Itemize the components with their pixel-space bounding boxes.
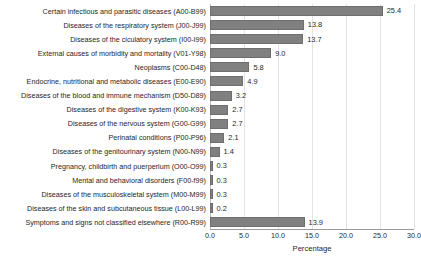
category-label: Diseases of the ciculatory system (I00-I… [0, 35, 206, 44]
bar-track: 0.3 [210, 173, 414, 187]
bar-row: Diseases of the ciculatory system (I00-I… [0, 32, 421, 46]
x-axis-tick-labels: 0.05.010.015.020.025.030.0 [0, 231, 421, 243]
bar-value-label: 13.8 [308, 20, 322, 29]
bar-row: Diseases of the respiratory system (J00-… [0, 18, 421, 32]
bar[interactable] [210, 119, 228, 129]
category-label: Certain infectious and parasitic disease… [0, 7, 206, 16]
bar-row: Diseases of the skin and subcutaneous ti… [0, 201, 421, 215]
bar-value-label: 0.3 [217, 190, 227, 199]
x-tick-label: 0.0 [205, 231, 215, 240]
x-tick-label: 15.0 [305, 231, 319, 240]
bar-track: 3.2 [210, 89, 414, 103]
bar[interactable] [210, 76, 243, 86]
category-label: Pregnancy, childbirth and puerperium (O0… [0, 162, 206, 171]
bar-value-label: 2.7 [232, 105, 242, 114]
category-label: External causes of morbidity and mortali… [0, 49, 206, 58]
bar[interactable] [210, 189, 213, 199]
bar[interactable] [210, 62, 249, 72]
bar-value-label: 5.8 [253, 63, 263, 72]
category-label: Endocrine, nutritional and metabolic dis… [0, 77, 206, 86]
bar-track: 13.8 [210, 18, 414, 32]
x-axis-line [210, 229, 414, 230]
bar-row: Diseases of the blood and immune mechani… [0, 89, 421, 103]
category-label: Mental and behavioral disorders (F00-f99… [0, 176, 206, 185]
category-label: Diseases of the respiratory system (J00-… [0, 21, 206, 30]
bar-row: Diseases of the musculoskeletal system (… [0, 187, 421, 201]
category-label: Diseases of the blood and immune mechani… [0, 91, 206, 100]
bar[interactable] [210, 217, 305, 227]
bar[interactable] [210, 105, 228, 115]
bar[interactable] [210, 203, 213, 213]
bar-value-label: 13.9 [309, 218, 323, 227]
bar-track: 0.3 [210, 159, 414, 173]
category-label: Diseases of the digestive system (K00-K9… [0, 105, 206, 114]
bar[interactable] [210, 161, 213, 171]
bar-row: Certain infectious and parasitic disease… [0, 4, 421, 18]
bar-row: Pregnancy, childbirth and puerperium (O0… [0, 159, 421, 173]
bar-rows: Certain infectious and parasitic disease… [0, 4, 421, 230]
category-label: Perinatal conditions (P00-P96) [0, 133, 206, 142]
bar-track: 25.4 [210, 4, 414, 18]
bar[interactable] [210, 6, 383, 16]
bar-value-label: 9.0 [275, 49, 285, 58]
bar[interactable] [210, 91, 232, 101]
x-axis-title: Percentage [210, 244, 414, 254]
bar-track: 9.0 [210, 46, 414, 60]
bar-track: 2.7 [210, 117, 414, 131]
bar-track: 13.9 [210, 215, 414, 229]
bar-track: 4.9 [210, 74, 414, 88]
bar-track: 5.8 [210, 60, 414, 74]
bar-row: Diseases of the genitourinary system (N0… [0, 145, 421, 159]
bar-row: Perinatal conditions (P00-P96)2.1 [0, 131, 421, 145]
category-label: Diseases of the skin and subcutaneous ti… [0, 204, 206, 213]
bar-row: Symptoms and signs not classified elsewh… [0, 215, 421, 229]
bar-row: External causes of morbidity and mortali… [0, 46, 421, 60]
bar-track: 0.3 [210, 187, 414, 201]
bar-track: 1.4 [210, 145, 414, 159]
bar-row: Mental and behavioral disorders (F00-f99… [0, 173, 421, 187]
x-tick-label: 30.0 [407, 231, 421, 240]
bar[interactable] [210, 133, 224, 143]
bar-row: Endocrine, nutritional and metabolic dis… [0, 74, 421, 88]
bar-chart: Certain infectious and parasitic disease… [0, 0, 421, 261]
category-label: Diseases of the musculoskeletal system (… [0, 190, 206, 199]
bar-track: 2.1 [210, 131, 414, 145]
bar[interactable] [210, 48, 271, 58]
bar-value-label: 0.3 [217, 176, 227, 185]
x-tick-label: 5.0 [239, 231, 249, 240]
bar-row: Diseases of the nervous system (G00-G99)… [0, 117, 421, 131]
bar-value-label: 4.9 [247, 77, 257, 86]
bar-value-label: 3.2 [236, 91, 246, 100]
bar-value-label: 2.7 [232, 119, 242, 128]
bar-track: 0.2 [210, 201, 414, 215]
category-label: Neoplasms (C00-D48) [0, 63, 206, 72]
bar-value-label: 0.3 [217, 161, 227, 170]
bar[interactable] [210, 20, 304, 30]
x-tick-label: 25.0 [373, 231, 387, 240]
bar-value-label: 13.7 [307, 35, 321, 44]
category-label: Diseases of the genitourinary system (N0… [0, 147, 206, 156]
bar-value-label: 2.1 [228, 133, 238, 142]
category-label: Diseases of the nervous system (G00-G99) [0, 119, 206, 128]
category-label: Symptoms and signs not classified elsewh… [0, 218, 206, 227]
bar-value-label: 0.2 [217, 204, 227, 213]
bar-row: Neoplasms (C00-D48)5.8 [0, 60, 421, 74]
bar-row: Diseases of the digestive system (K00-K9… [0, 103, 421, 117]
bar[interactable] [210, 175, 213, 185]
bar-track: 2.7 [210, 103, 414, 117]
bar[interactable] [210, 147, 220, 157]
x-tick-label: 10.0 [271, 231, 285, 240]
x-tick-label: 20.0 [339, 231, 353, 240]
bar-value-label: 1.4 [224, 147, 234, 156]
bar-value-label: 25.4 [387, 6, 401, 15]
bar-track: 13.7 [210, 32, 414, 46]
bar[interactable] [210, 34, 303, 44]
